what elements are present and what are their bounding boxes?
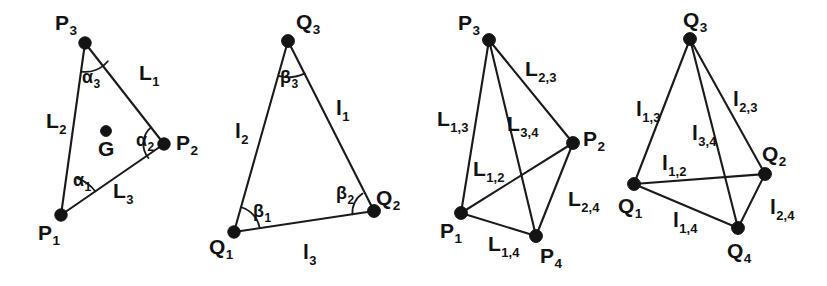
vertex-label-Q2: Q2 <box>376 187 400 208</box>
side-label-L3: L3 <box>113 180 133 201</box>
vertex-dot-P3-panel3 <box>483 34 496 47</box>
vertex-label-Q4-panel4: Q4 <box>727 240 751 261</box>
angle-label-beta3: β3 <box>280 68 298 86</box>
side-label-l3-4: l3,4 <box>692 122 716 143</box>
vertex-dot-P3 <box>79 37 91 49</box>
side-label-l2-3: l2,3 <box>733 88 757 109</box>
side-label-l3: l3 <box>303 241 316 262</box>
side-label-L1-2: L1,2 <box>473 158 504 179</box>
vertex-label-P1: P1 <box>38 222 60 243</box>
vertex-label-P3: P3 <box>55 12 77 33</box>
side-label-L1: L1 <box>139 62 159 83</box>
vertex-label-Q1: Q1 <box>209 236 233 257</box>
angle-label-alpha3: α3 <box>82 68 100 86</box>
vertex-dot-P1 <box>55 209 67 221</box>
side-label-l2-4: l2,4 <box>770 196 794 217</box>
vertex-dot-Q4-panel4 <box>732 222 745 235</box>
vertex-dot-P2-panel3 <box>567 137 580 150</box>
side-label-L2-3: L2,3 <box>525 58 556 79</box>
side-label-l1-4: l1,4 <box>673 209 697 230</box>
side-label-l2: l2 <box>235 120 248 141</box>
centroid-label-G: G <box>98 138 114 159</box>
edge-l2-4 <box>738 174 765 228</box>
edge-l1 <box>288 41 374 211</box>
side-label-L2: L2 <box>46 110 66 131</box>
angle-label-alpha1: α1 <box>73 171 91 189</box>
vertex-dot-Q1-panel4 <box>628 178 641 191</box>
centroid-dot-G <box>101 126 112 137</box>
vertex-label-P4-panel3: P4 <box>540 245 562 266</box>
figure-root: P1 P2 P3 G L1 L2 L3 α1 α2 α3 Q1 Q2 Q3 l1… <box>0 0 827 286</box>
vertex-dot-Q2-panel4 <box>759 168 772 181</box>
vertex-dot-P1-panel3 <box>455 207 468 220</box>
vertex-label-P1-panel3: P1 <box>440 220 462 241</box>
vertex-label-P2-panel3: P2 <box>583 128 605 149</box>
vertex-dot-P2 <box>158 138 170 150</box>
angle-label-beta1: β1 <box>253 202 271 220</box>
panel-2-geometry <box>228 35 381 239</box>
side-label-l1-2: l1,2 <box>662 152 686 173</box>
edge-L1 <box>85 43 164 144</box>
angle-label-alpha2: α2 <box>136 131 154 149</box>
side-label-l1-3: l1,3 <box>636 98 660 119</box>
panel-3-geometry <box>455 34 580 243</box>
side-label-L3-4: L3,4 <box>507 113 538 134</box>
vertex-label-Q2-panel4: Q2 <box>762 143 786 164</box>
vertex-dot-Q3-panel4 <box>684 33 697 46</box>
vertex-dot-Q3 <box>282 35 295 48</box>
side-label-l1: l1 <box>336 97 349 118</box>
side-label-L1-3: L1,3 <box>437 108 468 129</box>
vertex-label-P3-panel3: P3 <box>458 12 480 33</box>
side-label-L2-4: L2,4 <box>568 188 599 209</box>
vertex-label-P2: P2 <box>176 132 198 153</box>
edge-l1-2 <box>634 174 765 184</box>
vertex-label-Q3: Q3 <box>296 11 320 32</box>
angle-label-beta2: β2 <box>336 184 354 202</box>
vertex-label-Q1-panel4: Q1 <box>618 195 642 216</box>
side-label-L1-4: L1,4 <box>488 233 519 254</box>
vertex-label-Q3-panel4: Q3 <box>683 9 707 30</box>
vertex-dot-P4-panel3 <box>530 230 543 243</box>
